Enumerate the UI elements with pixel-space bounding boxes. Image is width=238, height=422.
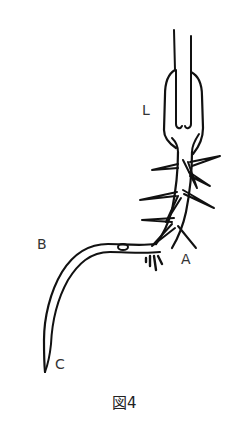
- spike: [152, 164, 178, 170]
- inner-leaf-left: [176, 70, 182, 128]
- sheath-right-outline: [191, 72, 203, 154]
- label-L: L: [142, 103, 150, 117]
- inner-leaf-right: [185, 72, 191, 128]
- label-B: B: [37, 237, 47, 251]
- label-C: C: [55, 357, 65, 371]
- sheath-left-outline: [164, 70, 176, 148]
- spike: [190, 156, 220, 166]
- figure-caption: 図4: [112, 391, 137, 412]
- root-scale: [118, 244, 128, 250]
- root-hairs: [146, 256, 162, 270]
- label-A: A: [181, 252, 191, 266]
- root-outer-edge: [44, 244, 156, 372]
- coleoptile-left-tip: [174, 30, 175, 70]
- seedling-drawing: [0, 0, 238, 422]
- spike: [178, 226, 196, 248]
- spike: [152, 224, 175, 246]
- spike: [140, 192, 177, 200]
